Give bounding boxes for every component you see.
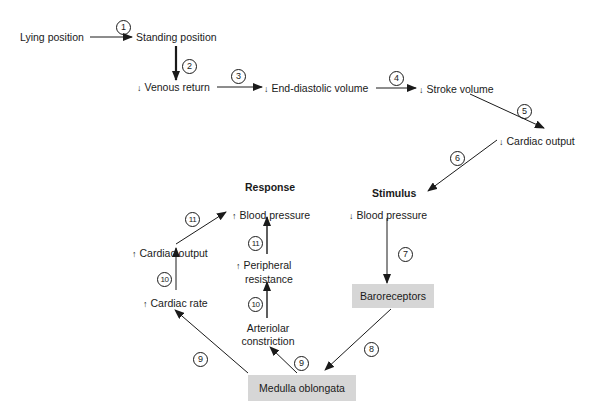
- baroreceptor-reflex-diagram: Lying position Standing position ↓Venous…: [0, 0, 596, 416]
- arrow-layer: [0, 0, 596, 416]
- node-cardiac-output-increase: ↑Cardiac output: [132, 247, 208, 261]
- box-baroreceptors: Baroreceptors: [352, 284, 434, 308]
- step-9-badge-left: 9: [193, 352, 208, 367]
- step-11-badge-right: 11: [248, 236, 263, 251]
- node-venous-return: ↓Venous return: [137, 81, 210, 95]
- decrease-arrow-icon: ↓: [419, 85, 424, 95]
- node-blood-pressure-decrease: ↓Blood pressure: [349, 209, 427, 223]
- increase-arrow-icon: ↑: [143, 299, 148, 309]
- step-3-badge: 3: [231, 69, 246, 84]
- node-end-diastolic-volume: ↓End-diastolic volume: [264, 82, 368, 96]
- node-cardiac-rate-increase: ↑Cardiac rate: [143, 297, 208, 311]
- node-stroke-volume: ↓Stroke volume: [419, 83, 494, 97]
- step-10-badge-left: 10: [157, 272, 172, 287]
- step-5-badge: 5: [517, 104, 532, 119]
- increase-arrow-icon: ↑: [232, 211, 237, 221]
- node-blood-pressure-increase: ↑Blood pressure: [232, 209, 310, 223]
- decrease-arrow-icon: ↓: [499, 137, 504, 147]
- header-stimulus: Stimulus: [372, 187, 416, 199]
- header-response: Response: [245, 181, 295, 193]
- node-peripheral-resistance-increase: ↑Peripheralresistance: [236, 259, 293, 286]
- node-cardiac-output-decrease: ↓Cardiac output: [499, 135, 575, 149]
- step-8-badge: 8: [364, 342, 379, 357]
- box-medulla-oblongata: Medulla oblongata: [248, 375, 356, 401]
- increase-arrow-icon: ↑: [132, 249, 137, 259]
- increase-arrow-icon: ↑: [236, 261, 241, 271]
- node-lying-position: Lying position: [20, 31, 84, 44]
- step-2-badge: 2: [182, 59, 197, 74]
- step-7-badge: 7: [398, 247, 413, 262]
- step-11-badge-left: 11: [185, 212, 200, 227]
- step-10-badge-right: 10: [248, 297, 263, 312]
- decrease-arrow-icon: ↓: [264, 84, 269, 94]
- step-6-badge: 6: [450, 151, 465, 166]
- step-9-badge-right: 9: [294, 356, 309, 371]
- decrease-arrow-icon: ↓: [137, 83, 142, 93]
- step-4-badge: 4: [389, 71, 404, 86]
- node-standing-position: Standing position: [136, 31, 217, 44]
- node-arteriolar-constriction: Arteriolarconstriction: [238, 322, 298, 348]
- decrease-arrow-icon: ↓: [349, 211, 354, 221]
- step-1-badge: 1: [116, 20, 131, 35]
